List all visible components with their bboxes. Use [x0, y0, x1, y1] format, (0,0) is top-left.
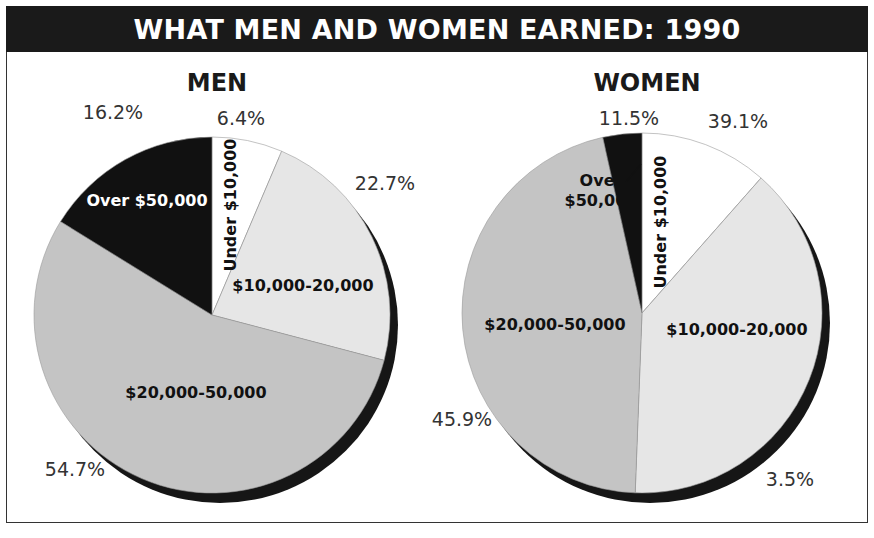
- pct-label-20-000-50-000: 45.9%: [432, 408, 492, 430]
- pie-men: MENUnder $10,000$10,000-20,000$20,000-50…: [34, 69, 415, 503]
- pct-label-over-50-000: 3.5%: [766, 468, 814, 490]
- slice-label-20-000-50-000: $20,000-50,000: [125, 383, 266, 402]
- pct-label-under-10-000: 11.5%: [599, 107, 659, 129]
- slice-label-20-000-50-000: $20,000-50,000: [484, 315, 625, 334]
- pie-charts: MENUnder $10,000$10,000-20,000$20,000-50…: [0, 0, 874, 538]
- slice-label-over-50-000: Over $50,000: [86, 191, 207, 210]
- pie-title: WOMEN: [593, 69, 700, 97]
- pct-label-10-000-20-000: 22.7%: [355, 172, 415, 194]
- pie-title: MEN: [187, 69, 247, 97]
- pie-women: WOMENUnder $10,000$10,000-20,000$20,000-…: [432, 69, 830, 503]
- slice-label-10-000-20-000: $10,000-20,000: [232, 276, 373, 295]
- slice-label-under-10-000: Under $10,000: [651, 155, 670, 288]
- pct-label-10-000-20-000: 39.1%: [708, 110, 768, 132]
- slice-label-under-10-000: Under $10,000: [221, 138, 240, 271]
- pct-label-20-000-50-000: 54.7%: [45, 458, 105, 480]
- slice-label-10-000-20-000: $10,000-20,000: [666, 320, 807, 339]
- pct-label-over-50-000: 16.2%: [83, 101, 143, 123]
- pct-label-under-10-000: 6.4%: [217, 107, 265, 129]
